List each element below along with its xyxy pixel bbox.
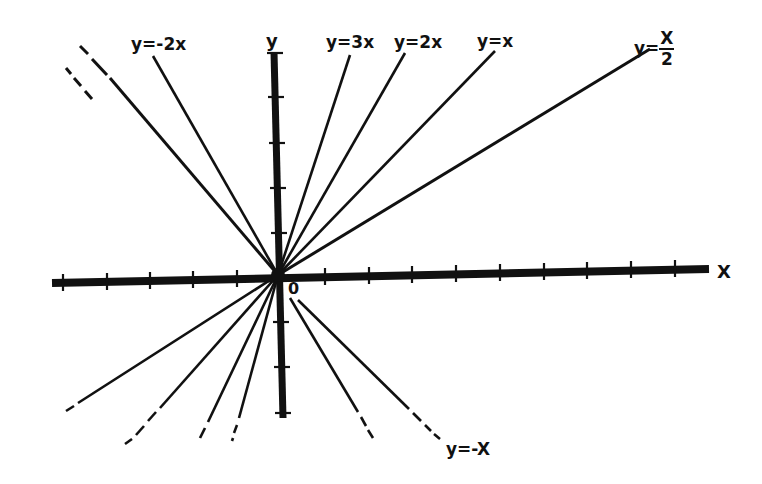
fraction-numerator: X (659, 30, 674, 50)
line-y-neg2x-lower (290, 298, 358, 412)
label-y-2x: y=2x (394, 34, 442, 51)
line-y-neg2x-dash (68, 68, 104, 71)
line-y-3x (278, 55, 350, 275)
label-y-neg2x: y=-2x (131, 36, 186, 53)
y-axis (274, 52, 283, 418)
origin-point (271, 268, 285, 282)
origin-label: 0 (288, 281, 299, 297)
fraction-denominator: 2 (659, 50, 674, 68)
line-y-neg2x (153, 56, 278, 275)
line-family-diagram (0, 0, 762, 484)
label-y-x: y=x (477, 33, 513, 50)
line-y-neg-x-lower (298, 300, 409, 409)
label-y-3x: y=3x (326, 34, 374, 51)
label-y-neg-x: y=-X (446, 441, 490, 458)
line-y-neg2x-upper (110, 78, 278, 275)
label-y-half-x-lhs: y= (634, 38, 659, 58)
y-axis-label: y (266, 32, 278, 50)
fraction: X2 (659, 30, 674, 68)
label-y-half-x: y=X2 (634, 30, 674, 68)
x-axis-label: X (717, 263, 731, 281)
